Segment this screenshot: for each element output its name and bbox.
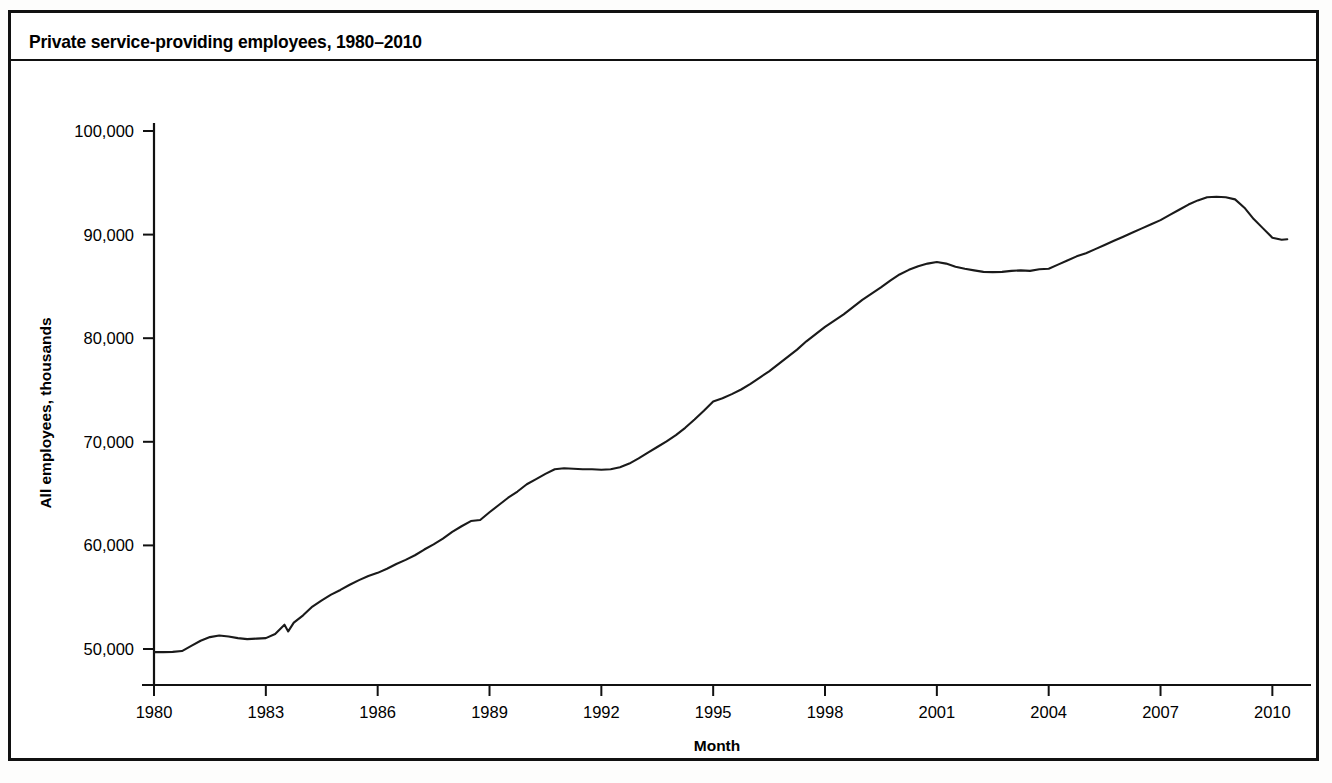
line-chart-svg: All employees, thousands Month 50,00060,…: [11, 13, 1322, 764]
series-line-private-service-providing: [154, 197, 1287, 652]
x-tick-label: 1980: [136, 703, 173, 721]
figure-frame: Private service-providing employees, 198…: [8, 10, 1319, 761]
plot-area: All employees, thousands Month 50,00060,…: [11, 13, 1322, 764]
y-tick-label: 80,000: [84, 329, 134, 347]
y-axis-title: All employees, thousands: [37, 317, 54, 508]
x-tick-label: 1998: [807, 703, 844, 721]
y-tick-label: 70,000: [84, 433, 134, 451]
y-tick-label: 60,000: [84, 536, 134, 554]
y-tick-label: 50,000: [84, 640, 134, 658]
y-axis-ticks: 50,00060,00070,00080,00090,000100,000: [74, 122, 154, 658]
axis-lines: [142, 123, 1311, 685]
x-tick-label: 1995: [695, 703, 732, 721]
y-tick-label: 100,000: [74, 122, 134, 140]
x-axis-ticks: 1980198319861989199219951998200120042007…: [136, 685, 1291, 721]
x-tick-label: 2010: [1254, 703, 1291, 721]
page-root: Private service-providing employees, 198…: [0, 0, 1332, 783]
x-tick-label: 2001: [918, 703, 955, 721]
y-tick-label: 90,000: [84, 226, 134, 244]
x-tick-label: 1986: [359, 703, 396, 721]
x-tick-label: 1992: [583, 703, 620, 721]
x-tick-label: 2007: [1142, 703, 1179, 721]
x-tick-label: 1983: [247, 703, 284, 721]
x-tick-label: 2004: [1030, 703, 1067, 721]
x-axis-title: Month: [694, 737, 740, 754]
x-tick-label: 1989: [471, 703, 508, 721]
